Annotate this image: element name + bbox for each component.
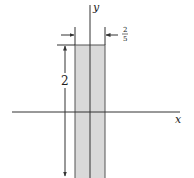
- x-axis-label: x: [175, 113, 182, 126]
- y-axis-label: y: [92, 1, 100, 14]
- height-label: 2: [61, 74, 69, 88]
- width-label-numerator: 2: [123, 26, 127, 34]
- strip-diagram: y x 2 2 5: [0, 0, 194, 178]
- width-label-denominator: 5: [123, 35, 127, 43]
